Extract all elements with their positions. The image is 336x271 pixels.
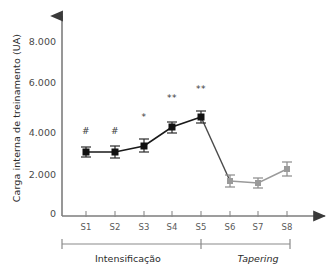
- phase-bracket-intensification: [62, 239, 201, 249]
- data-line-transition: [201, 117, 230, 181]
- training-load-line-chart: Carga interna de treinamento (UA) 8.000 …: [0, 0, 336, 271]
- data-point-marker-s4: [169, 124, 176, 131]
- data-point-marker-s2: [112, 149, 119, 156]
- data-point-marker-s6: [227, 178, 233, 184]
- chart-canvas: [0, 0, 336, 271]
- data-point-marker-s5: [198, 114, 205, 121]
- phase-bracket-tapering: [201, 239, 290, 249]
- x-axis: [62, 211, 325, 217]
- data-point-marker-s3: [141, 143, 148, 150]
- data-point-marker-s1: [83, 149, 90, 156]
- data-point-marker-s7: [255, 180, 261, 186]
- data-point-marker-s8: [284, 166, 290, 172]
